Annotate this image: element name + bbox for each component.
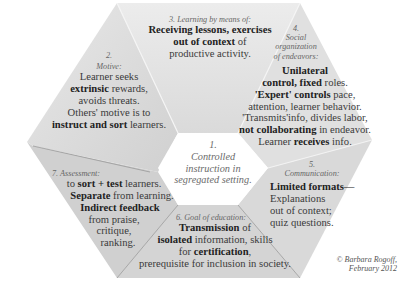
center-line-2: instruction in — [158, 163, 268, 175]
social-line-4: attention, learner behavior. — [236, 101, 374, 113]
motive-line-4: Others' motive is to — [46, 107, 172, 119]
assessment-line-1-rest: learners. — [122, 178, 161, 189]
social-heading-1: Social — [245, 33, 347, 42]
assessment-line-3: Indirect feedback — [50, 202, 178, 214]
center-line-1: Controlled — [158, 151, 268, 163]
social-line-2-bold: control, fixed — [262, 77, 322, 88]
social-line-7-bold: receives — [294, 136, 330, 147]
section-social: Unilateral control, fixed roles. 'Expert… — [236, 65, 374, 148]
learning-line-2-bold: out of context — [173, 36, 235, 47]
assessment-heading: 7. Assessment: — [52, 169, 100, 178]
learning-heading: 3. Learning by means of: — [125, 15, 295, 24]
communication-heading: Communication: — [272, 169, 352, 178]
copyright: © Barbara Rogoff, February 2012 — [336, 256, 397, 274]
section-goal: Transmission of isolated information, sk… — [120, 222, 310, 269]
goal-line-3: for certification, — [120, 246, 310, 258]
goal-line-1: Transmission of — [120, 222, 310, 234]
communication-line-3: out of context; — [270, 205, 354, 217]
section-motive: 2. Motive: Learner seeks extrinsic rewar… — [46, 51, 172, 131]
motive-line-3: avoids threats. — [46, 95, 172, 107]
motive-line-2-bold: extrinsic — [70, 83, 109, 94]
motive-line-2: extrinsic rewards, — [46, 83, 172, 95]
section-social-heading: 4. Social organization of endeavors: — [245, 24, 347, 61]
section-communication-heading: 5. Communication: — [272, 160, 352, 178]
social-line-1: Unilateral — [236, 65, 374, 77]
communication-line-1: Limited formats— — [270, 181, 354, 193]
communication-line-2: Explanations — [270, 193, 354, 205]
motive-line-2-rest: rewards, — [109, 83, 148, 94]
social-line-6: not collaborating in endeavor. — [236, 124, 374, 136]
social-line-6-rest: in endeavor. — [316, 124, 370, 135]
goal-line-2-bold: isolated — [157, 234, 192, 245]
social-line-7-rest: info. — [329, 136, 351, 147]
communication-number: 5. — [272, 160, 352, 169]
goal-line-3-rest: , — [249, 246, 252, 257]
motive-number: 2. — [46, 51, 172, 60]
social-line-3-rest: pace, — [331, 89, 356, 100]
assessment-line-2-rest: from learning. — [110, 190, 173, 201]
goal-line-1-bold: Transmission — [179, 222, 239, 233]
motive-line-1: Learner seeks — [46, 71, 172, 83]
motive-line-5-bold: instruct and sort — [52, 119, 127, 130]
social-line-2-rest: roles. — [322, 77, 348, 88]
social-heading-2: organization — [245, 42, 347, 51]
social-heading-3: of endeavors: — [245, 52, 347, 61]
assessment-line-1: to sort + test learners. — [50, 178, 178, 190]
goal-line-3-pre: for — [179, 246, 194, 257]
motive-line-5-rest: learners. — [127, 119, 166, 130]
center-number: 1. — [158, 139, 268, 151]
goal-line-1-rest: of — [239, 222, 250, 233]
goal-line-2: isolated information, skills — [120, 234, 310, 246]
goal-line-2-rest: information, skills — [192, 234, 272, 245]
assessment-line-1-pre: to — [67, 178, 78, 189]
social-line-2: control, fixed roles. — [236, 77, 374, 89]
goal-line-3-bold: certification — [194, 246, 249, 257]
motive-heading: Motive: — [46, 62, 172, 71]
copyright-line-2: February 2012 — [336, 265, 397, 274]
social-line-3: 'Expert' controls pace, — [236, 89, 374, 101]
motive-line-5: instruct and sort learners. — [46, 119, 172, 131]
assessment-line-1-bold: sort + test — [78, 178, 123, 189]
social-line-5: 'Transmits'info, divides labor, — [236, 112, 374, 124]
social-line-3-bold: 'Expert' controls — [255, 89, 331, 100]
goal-heading: 6. Goal of education: — [168, 213, 254, 222]
assessment-line-2: Separate from learning. — [50, 190, 178, 202]
assessment-line-2-bold: Separate — [70, 190, 110, 201]
social-line-6-bold: not collaborating — [239, 124, 316, 135]
social-number: 4. — [245, 24, 347, 33]
goal-line-4: prerequisite for inclusion in society. — [120, 258, 310, 270]
